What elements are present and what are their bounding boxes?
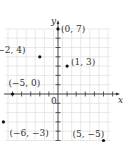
point-0-7 — [56, 27, 59, 30]
origin-label: 0 — [51, 96, 57, 106]
point-neg6-neg3 — [2, 120, 5, 123]
point-label-1-3: (1, 3) — [71, 57, 95, 67]
point-label-neg5-0: (−5, 0) — [9, 78, 41, 88]
point-neg2-4 — [38, 55, 41, 58]
y-axis-label: y — [50, 16, 57, 26]
point-label-neg6-neg3: (−6, −3) — [9, 128, 48, 138]
coordinate-plane: x y 0 (0, 7) (−2, 4) (1, 3) (−5, 0) (−6,… — [0, 0, 126, 145]
plotted-points: (0, 7) (−2, 4) (1, 3) (−5, 0) (−6, −3) (… — [0, 24, 105, 142]
x-axis-label: x — [118, 95, 123, 105]
point-5-neg5 — [102, 139, 105, 142]
point-label-5-neg5: (5, −5) — [73, 129, 105, 139]
point-label-neg2-4: (−2, 4) — [0, 45, 26, 55]
y-axis-arrow-icon — [57, 20, 60, 24]
point-neg5-0 — [11, 92, 14, 95]
point-1-3 — [66, 65, 69, 68]
point-label-0-7: (0, 7) — [61, 24, 85, 34]
